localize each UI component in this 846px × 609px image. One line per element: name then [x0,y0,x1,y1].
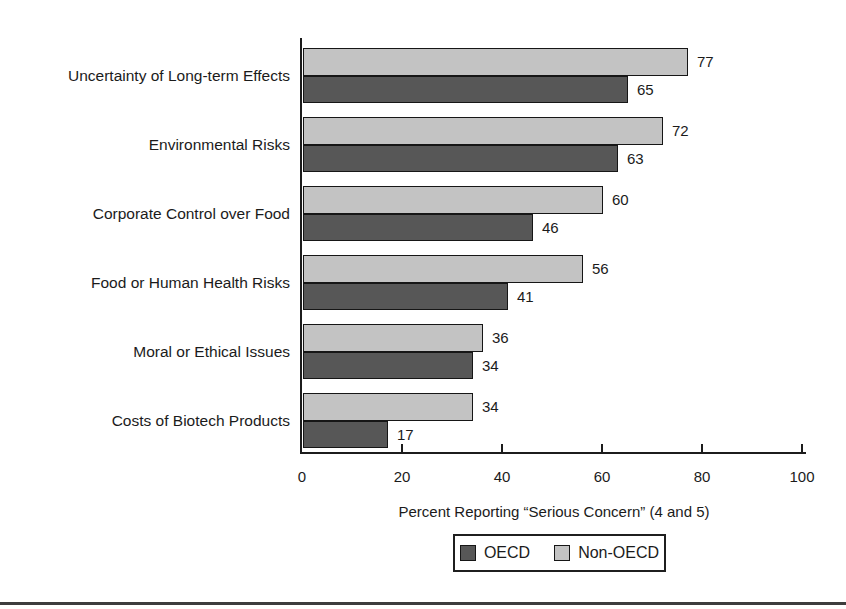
x-axis-tick-label: 100 [772,468,832,485]
value-label: 34 [482,357,499,375]
legend-swatch-icon [554,545,570,561]
bar-non-oecd [303,48,688,76]
x-axis-tick-label: 60 [572,468,632,485]
x-axis-line [300,452,806,454]
bar-non-oecd [303,393,473,421]
category-label: Corporate Control over Food [30,204,290,224]
value-label: 56 [592,260,609,278]
bar-non-oecd [303,186,603,214]
x-axis-tick-label: 80 [672,468,732,485]
legend-label: OECD [484,544,530,562]
bar-oecd [303,352,473,379]
value-label: 17 [397,426,414,444]
x-axis-tick-label: 0 [272,468,332,485]
x-axis-tick-label: 20 [372,468,432,485]
bar-non-oecd [303,117,663,145]
x-axis-tick [401,444,403,452]
category-label: Uncertainty of Long-term Effects [30,66,290,86]
category-label: Moral or Ethical Issues [30,342,290,362]
page-divider-rule [0,602,846,605]
legend: OECDNon-OECD [453,534,666,572]
x-axis-tick [501,444,503,452]
x-axis-tick [601,444,603,452]
bar-non-oecd [303,255,583,283]
legend-label: Non-OECD [578,544,659,562]
x-axis-title: Percent Reporting “Serious Concern” (4 a… [302,503,806,520]
legend-item: OECD [460,544,530,562]
value-label: 41 [517,288,534,306]
x-axis-tick [801,444,803,452]
bar-oecd [303,283,508,310]
legend-item: Non-OECD [554,544,659,562]
bar-oecd [303,421,388,448]
value-label: 34 [482,398,499,416]
bar-oecd [303,214,533,241]
value-label: 60 [612,191,629,209]
category-label: Food or Human Health Risks [30,273,290,293]
bar-chart-figure: Uncertainty of Long-term Effects7765Envi… [0,0,846,609]
value-label: 46 [542,219,559,237]
bar-non-oecd [303,324,483,352]
value-label: 72 [672,122,689,140]
bar-oecd [303,76,628,103]
value-label: 63 [627,150,644,168]
category-label: Costs of Biotech Products [30,411,290,431]
value-label: 77 [697,53,714,71]
value-label: 36 [492,329,509,347]
bar-oecd [303,145,618,172]
x-axis-tick [701,444,703,452]
legend-swatch-icon [460,545,476,561]
y-axis-line [300,38,302,454]
value-label: 65 [637,81,654,99]
category-label: Environmental Risks [30,135,290,155]
x-axis-tick-label: 40 [472,468,532,485]
